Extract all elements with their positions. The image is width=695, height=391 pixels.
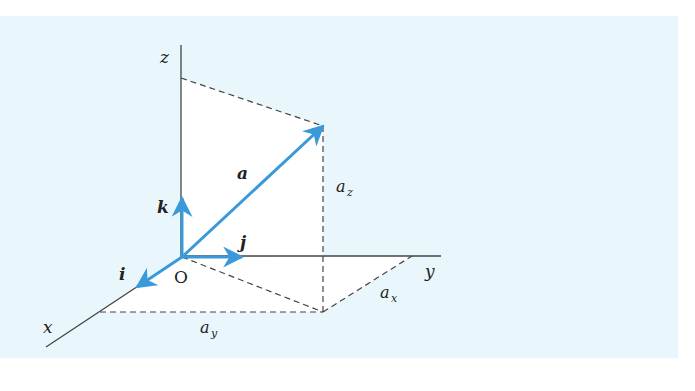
component-ax-label: a x	[380, 283, 398, 305]
origin-label: O	[174, 267, 188, 287]
vector-a-label: a	[237, 163, 248, 183]
svg-text:z: z	[346, 186, 353, 199]
z-axis-label: z	[159, 47, 170, 67]
vector-components-diagram: z y x O a i j k a x a y a z	[0, 0, 695, 391]
y-axis-label: y	[424, 261, 435, 281]
component-az-label: a z	[336, 177, 353, 199]
component-ay-label: a y	[200, 318, 218, 340]
vertical-projection-plane	[181, 78, 323, 256]
svg-text:x: x	[391, 292, 398, 305]
unit-vector-i-label: i	[119, 264, 125, 284]
unit-vector-k-label: k	[157, 197, 169, 217]
x-axis-label: x	[43, 317, 53, 337]
ground-projection-plane	[100, 256, 412, 312]
svg-text:a: a	[200, 318, 210, 337]
svg-text:a: a	[336, 177, 346, 196]
svg-text:a: a	[380, 283, 390, 302]
svg-text:y: y	[210, 327, 218, 340]
